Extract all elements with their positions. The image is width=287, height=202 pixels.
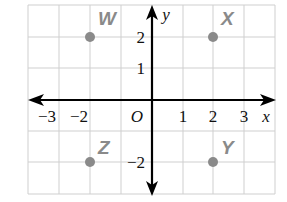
- x-tick-1: 1: [179, 107, 188, 126]
- point-label-Y: Y: [221, 137, 236, 158]
- x-axis-label: x: [261, 107, 270, 126]
- x-tick-2: 2: [209, 107, 218, 126]
- y-axis-label: y: [160, 5, 170, 24]
- point-label-Z: Z: [97, 137, 111, 158]
- y-tick-neg2: −2: [127, 153, 145, 172]
- x-tick-3: 3: [240, 107, 249, 126]
- point-label-W: W: [98, 8, 118, 29]
- x-tick-neg3: −3: [38, 107, 56, 126]
- origin-label: O: [131, 107, 143, 126]
- point-label-X: X: [220, 8, 235, 29]
- y-tick-2: 2: [137, 28, 146, 47]
- x-tick-neg2: −2: [70, 107, 88, 126]
- coordinate-plane: −3 −2 O 1 2 3 x 2 1 −2 y W X Z Y: [0, 0, 287, 202]
- y-tick-1: 1: [137, 59, 146, 78]
